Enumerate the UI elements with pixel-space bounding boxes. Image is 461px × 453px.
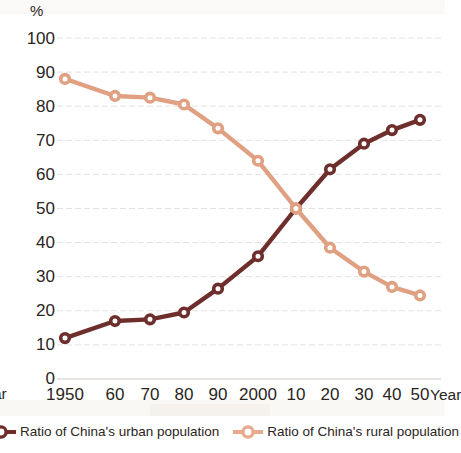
y-axis-tick-20: 20 — [7, 302, 55, 319]
y-axis-tick-10: 10 — [7, 336, 55, 353]
x-axis-label-right: Year — [430, 387, 461, 403]
data-point — [254, 156, 263, 165]
x-axis-tick-10: 10 — [287, 386, 306, 403]
legend-marker-urban-icon — [0, 425, 16, 439]
data-point — [180, 100, 189, 109]
data-point — [416, 116, 425, 125]
data-point — [61, 75, 70, 84]
y-axis-tick-50: 50 — [7, 200, 55, 217]
data-point — [146, 93, 155, 102]
series-line — [65, 120, 420, 338]
data-point — [292, 204, 301, 213]
x-axis-tick-80: 80 — [175, 386, 194, 403]
legend-marker-rural-icon — [233, 425, 263, 439]
gridlines — [57, 38, 441, 379]
x-axis-tick-70: 70 — [141, 386, 160, 403]
data-point — [111, 92, 120, 101]
data-point — [61, 334, 70, 343]
legend-item-rural[interactable]: Ratio of China's rural population — [233, 425, 459, 439]
x-axis-tick-90: 90 — [209, 386, 228, 403]
legend-item-urban[interactable]: Ratio of China's urban population — [0, 425, 219, 439]
series-urban — [61, 116, 425, 343]
data-point — [388, 283, 397, 292]
x-axis-tick-20: 20 — [321, 386, 340, 403]
data-point — [360, 139, 369, 148]
data-point — [146, 315, 155, 324]
data-point — [214, 124, 223, 133]
data-point — [326, 165, 335, 174]
series-rural — [61, 75, 425, 300]
chart-legend: Ratio of China's urban population Ratio … — [0, 425, 445, 439]
scan-smudge — [150, 404, 270, 416]
y-axis-tick-30: 30 — [7, 268, 55, 285]
y-axis-tick-90: 90 — [7, 64, 55, 81]
x-axis-tick-30: 30 — [355, 386, 374, 403]
x-axis-label-left-clipped: ar — [0, 386, 7, 402]
x-axis-tick-60: 60 — [106, 386, 125, 403]
data-point — [416, 291, 425, 300]
data-point — [326, 243, 335, 252]
legend-label-urban: Ratio of China's urban population — [20, 425, 219, 439]
x-axis-tick-50: 50 — [411, 386, 430, 403]
series-layer — [61, 75, 425, 343]
series-line — [65, 79, 420, 296]
data-point — [111, 317, 120, 326]
scan-smudge — [0, 0, 445, 14]
y-axis-tick-80: 80 — [7, 98, 55, 115]
x-axis-tick-1950: 1950 — [46, 386, 84, 403]
data-point — [388, 126, 397, 135]
y-axis-tick-70: 70 — [7, 132, 55, 149]
x-axis-tick-2000: 2000 — [239, 386, 277, 403]
data-point — [180, 308, 189, 317]
data-point — [292, 204, 301, 213]
y-axis-tick-60: 60 — [7, 166, 55, 183]
x-axis-tick-40: 40 — [383, 386, 402, 403]
legend-label-rural: Ratio of China's rural population — [267, 425, 459, 439]
y-axis-tick-40: 40 — [7, 234, 55, 251]
data-point — [360, 267, 369, 276]
data-point — [254, 252, 263, 261]
y-axis-tick-100: 100 — [7, 30, 55, 47]
data-point — [214, 284, 223, 293]
y-axis-tick-0: 0 — [7, 370, 55, 387]
